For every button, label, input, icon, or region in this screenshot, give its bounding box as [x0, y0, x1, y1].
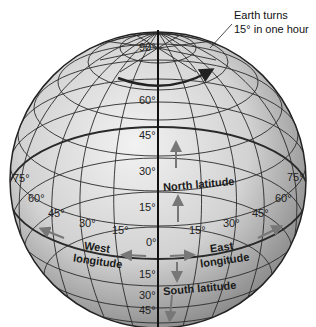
lat-label-15n: 15°	[139, 202, 156, 213]
lat-label-equator: 0°	[146, 237, 157, 248]
lat-label-45s: 45°	[139, 305, 156, 316]
lat-label-30s: 30°	[139, 290, 156, 301]
lon-label-15e: 15°	[189, 225, 206, 236]
lon-label-45e: 45°	[252, 208, 269, 219]
annotation-line-2: 15° in one hour	[234, 22, 309, 36]
west-arrow-inner	[126, 255, 146, 256]
globe-diagram: Earth turns 15° in one hour 90° 60° 45° …	[0, 0, 316, 327]
annotation-leader	[210, 24, 232, 48]
lon-label-45w: 45°	[48, 208, 65, 219]
east-arrow-inner	[170, 255, 190, 256]
lat-label-45n: 45°	[139, 130, 156, 141]
lat-label-60n: 60°	[139, 95, 156, 106]
lon-label-30w: 30°	[79, 218, 96, 229]
lon-label-30e: 30°	[223, 218, 240, 229]
lon-label-15w: 15°	[112, 225, 129, 236]
lat-label-30n: 30°	[139, 166, 156, 177]
lon-label-60e: 60°	[275, 193, 292, 204]
globe-graphic	[0, 0, 316, 327]
lon-label-60w: 60°	[28, 193, 45, 204]
lat-label-90n: 90°	[139, 42, 156, 53]
annotation-line-1: Earth turns	[234, 8, 309, 22]
lat-label-15s: 15°	[139, 269, 156, 280]
lon-label-75w: 75°	[13, 173, 30, 184]
lon-label-75e: 75°	[287, 172, 304, 183]
rotation-annotation: Earth turns 15° in one hour	[234, 8, 309, 36]
